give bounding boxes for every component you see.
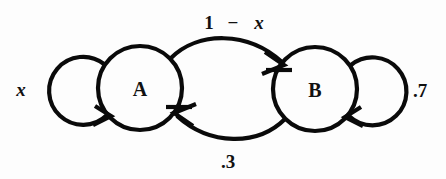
transition-a-to-b[interactable] [171,38,292,74]
state-node-b[interactable]: B [273,47,357,131]
transition-b-to-a-path [177,116,285,139]
transition-a-to-b-label-x: x [253,12,264,33]
transition-a-to-b-label-minus: − [228,12,239,33]
transition-b-to-a-label: .3 [221,151,235,172]
self-loop-b-label: .7 [413,80,428,101]
transition-a-to-b-label-one: 1 [204,12,214,33]
markov-diagram: A B x 1 − x .3 .7 [0,0,446,179]
self-loop-b[interactable] [345,57,406,126]
transition-a-to-b-label: 1 − x [204,12,264,33]
transition-b-to-a[interactable] [166,104,285,139]
state-node-a[interactable]: A [98,46,182,130]
transition-a-to-b-path [171,38,282,62]
diagram-canvas: A B x 1 − x .3 .7 [0,0,446,179]
state-a-label: A [133,78,148,100]
state-b-label: B [308,79,321,101]
self-loop-a-label: x [15,79,26,100]
